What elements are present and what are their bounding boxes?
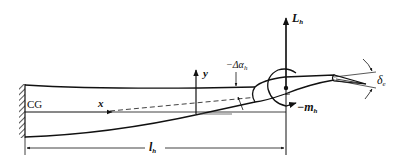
moment-sub: h [314,107,318,115]
fixed-wall-support [19,84,25,138]
lift-label: Lh [292,12,303,26]
airfoil [253,75,335,102]
tail-arm-label: lh [149,141,156,155]
delta-alpha-prefix: −Δα [226,59,244,70]
moment-prefix: −m [297,100,314,114]
x-axis-label: x [98,98,104,109]
elevator-deflection-label: δe [377,74,386,88]
tail-arm-sub: h [152,147,156,155]
tail-diagram [0,0,400,165]
delta-alpha-sub: h [244,64,248,72]
y-axis-label: y [203,68,208,79]
cg-label: CG [27,99,42,110]
lift-sub: h [299,18,303,26]
tail-boom-beam [25,85,255,137]
delta-alpha-label: −Δαh [226,60,247,72]
moment-label: −mh [297,101,318,115]
delta-e-sub: e [383,80,386,88]
